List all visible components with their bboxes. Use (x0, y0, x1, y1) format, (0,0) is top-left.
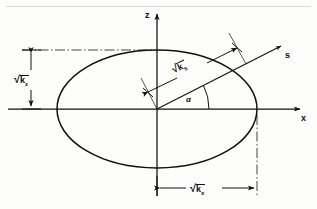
angle-arc (204, 86, 210, 110)
diagram-vector-layer (0, 0, 317, 209)
radicand-kx: kx (196, 184, 205, 196)
ks-dimension-line-left (148, 78, 177, 92)
radicand-kz: kz (20, 75, 29, 87)
s-direction-label: s (285, 51, 290, 60)
z-axis-label: z (145, 11, 150, 20)
figure-canvas: z x s α √kz √kx √ks (0, 0, 317, 209)
sqrt-kx-label: √kx (190, 182, 205, 195)
subscript-kz: z (25, 81, 28, 87)
sqrt-kz-label: √kz (14, 73, 29, 86)
ks-dimension-line-right (207, 48, 237, 63)
s-direction-ray (157, 46, 281, 109)
ks-dimension-cap-ellipse (232, 43, 242, 52)
ks-dimension-cap-origin (143, 88, 153, 97)
angle-alpha-label: α (186, 96, 191, 104)
subscript-kx: x (201, 190, 204, 196)
x-axis-label: x (301, 114, 306, 123)
